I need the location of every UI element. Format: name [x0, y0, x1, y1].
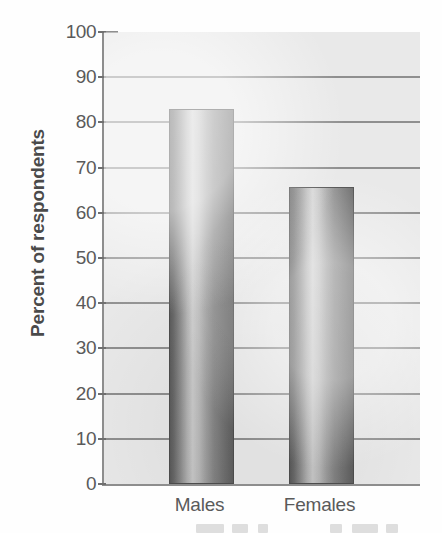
gridline-10 [104, 438, 420, 440]
gridline-40 [104, 302, 420, 304]
y-tick-label-90: 90 [52, 67, 96, 86]
gridline-80 [104, 121, 420, 123]
y-tick-mark-70 [98, 167, 106, 169]
y-tick-mark-40 [98, 302, 106, 304]
y-tick-mark-60 [98, 212, 106, 214]
scan-edge-artifact [0, 524, 442, 533]
gridline-90 [104, 76, 420, 78]
gridline-20 [104, 393, 420, 395]
x-axis-label-females: Females [250, 494, 390, 516]
y-tick-mark-80 [98, 121, 106, 123]
y-tick-label-0: 0 [52, 474, 96, 493]
y-tick-mark-50 [98, 257, 106, 259]
y-tick-label-40: 40 [52, 293, 96, 312]
y-tick-label-50: 50 [52, 248, 96, 267]
y-tick-mark-100 [98, 31, 106, 33]
y-tick-label-20: 20 [52, 384, 96, 403]
bar-females [289, 187, 354, 484]
y-axis-tick-labels: 0102030405060708090100 [40, 0, 96, 533]
gridline-100 [104, 31, 118, 33]
y-tick-mark-10 [98, 438, 106, 440]
gridline-50 [104, 257, 420, 259]
plot-area [102, 32, 420, 486]
y-tick-label-60: 60 [52, 203, 96, 222]
x-axis-label-males: Males [130, 494, 270, 516]
y-tick-label-80: 80 [52, 112, 96, 131]
y-tick-mark-30 [98, 347, 106, 349]
y-tick-label-70: 70 [52, 158, 96, 177]
gridline-60 [104, 212, 420, 214]
y-tick-mark-20 [98, 393, 106, 395]
gridline-70 [104, 167, 420, 169]
y-tick-mark-0 [98, 483, 106, 485]
gridline-30 [104, 347, 420, 349]
y-tick-label-10: 10 [52, 429, 96, 448]
y-tick-label-30: 30 [52, 338, 96, 357]
chart-figure: Percent of respondents 01020304050607080… [0, 0, 442, 533]
y-tick-mark-90 [98, 76, 106, 78]
bar-males [169, 109, 234, 484]
y-tick-label-100: 100 [52, 22, 96, 41]
